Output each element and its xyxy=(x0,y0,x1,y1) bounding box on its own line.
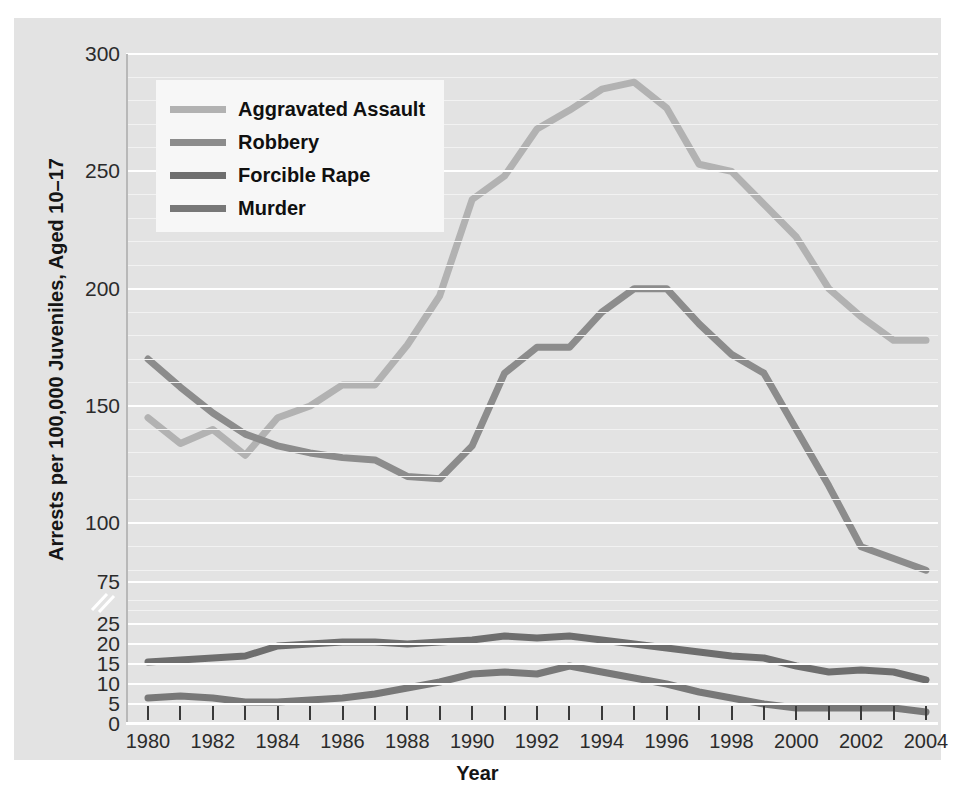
x-axis-tick xyxy=(309,706,311,720)
gridline xyxy=(126,405,938,407)
gridline-minor xyxy=(126,546,938,547)
legend-swatch-icon xyxy=(170,106,226,113)
gridline xyxy=(126,663,938,665)
chart-card: Arrests per 100,000 Juveniles, Aged 10–1… xyxy=(14,18,941,760)
x-axis-tick-label: 1984 xyxy=(255,730,300,753)
legend-swatch-icon xyxy=(170,205,226,212)
gridline-minor xyxy=(126,335,938,336)
x-axis-tick xyxy=(763,706,765,720)
gridline-minor xyxy=(126,265,938,266)
legend-item: Murder xyxy=(170,193,306,223)
gridline xyxy=(126,522,938,524)
x-axis-tick-labels: 1980198219841986198819901992199419961998… xyxy=(126,730,938,760)
y-axis-tick-label: 15 xyxy=(97,653,120,674)
gridline xyxy=(126,623,938,625)
x-axis-tick xyxy=(893,706,895,720)
x-axis-line xyxy=(126,722,938,724)
gridline-minor xyxy=(126,359,938,360)
x-axis-tick-label: 1988 xyxy=(385,730,430,753)
x-axis-tick xyxy=(633,706,635,720)
x-axis-tick xyxy=(374,706,376,720)
legend-item: Aggravated Assault xyxy=(170,94,425,124)
x-axis-tick xyxy=(536,706,538,720)
y-axis-tick-label: 100 xyxy=(85,512,120,533)
x-axis-tick xyxy=(504,706,506,720)
x-axis-tick xyxy=(666,706,668,720)
legend-swatch-icon xyxy=(170,172,226,179)
gridline-minor xyxy=(126,476,938,477)
gridline-minor xyxy=(126,570,938,571)
y-axis-tick-label: 0 xyxy=(108,713,120,734)
x-axis-tick xyxy=(244,706,246,720)
gridline xyxy=(126,53,938,55)
x-axis-tick-label: 1982 xyxy=(191,730,236,753)
x-axis-tick xyxy=(795,706,797,720)
gridline xyxy=(126,683,938,685)
gridline-minor xyxy=(126,382,938,383)
x-axis-tick-label: 1986 xyxy=(320,730,365,753)
chart-legend: Aggravated AssaultRobberyForcible RapeMu… xyxy=(156,80,444,232)
gridline-minor xyxy=(126,452,938,453)
x-axis-tick xyxy=(731,706,733,720)
gridline-minor xyxy=(126,600,938,601)
legend-item-label: Robbery xyxy=(238,131,319,154)
legend-swatch-icon xyxy=(170,139,226,146)
x-axis-tick xyxy=(147,706,149,720)
x-axis-tick xyxy=(568,706,570,720)
gridline xyxy=(126,643,938,645)
x-axis-title: Year xyxy=(14,762,941,785)
y-axis-tick-label: 10 xyxy=(97,673,120,694)
gridline-minor xyxy=(126,241,938,242)
gridline-minor xyxy=(126,77,938,78)
x-axis-tick-label: 2000 xyxy=(774,730,819,753)
x-axis-tick-label: 2002 xyxy=(839,730,884,753)
gridline-minor xyxy=(126,499,938,500)
x-axis-tick xyxy=(925,706,927,720)
legend-item: Forcible Rape xyxy=(170,160,370,190)
y-axis-tick-label: 75 xyxy=(97,571,120,592)
x-axis-tick xyxy=(439,706,441,720)
y-axis-tick-label: 5 xyxy=(108,693,120,714)
x-axis-tick xyxy=(342,706,344,720)
gridline xyxy=(126,581,938,583)
x-axis-tick xyxy=(406,706,408,720)
x-axis-tick xyxy=(860,706,862,720)
gridline-minor xyxy=(126,610,938,611)
gridline-minor xyxy=(126,429,938,430)
gridline xyxy=(126,703,938,705)
x-axis-tick-label: 1980 xyxy=(126,730,171,753)
y-axis-tick-labels: 300250200150100752520151050 xyxy=(54,54,120,724)
x-axis-tick xyxy=(698,706,700,720)
x-axis-tick xyxy=(828,706,830,720)
y-axis-line xyxy=(126,54,128,724)
legend-item-label: Aggravated Assault xyxy=(238,98,425,121)
gridline xyxy=(126,288,938,290)
y-axis-tick-label: 250 xyxy=(85,160,120,181)
x-axis-tick-label: 1990 xyxy=(450,730,495,753)
chart-root: Arrests per 100,000 Juveniles, Aged 10–1… xyxy=(0,0,955,799)
x-axis-tick xyxy=(179,706,181,720)
x-axis-tick xyxy=(277,706,279,720)
x-axis-tick-label: 1994 xyxy=(580,730,625,753)
x-axis-tick-label: 1996 xyxy=(644,730,689,753)
y-axis-tick-label: 150 xyxy=(85,395,120,416)
legend-item-label: Forcible Rape xyxy=(238,164,370,187)
x-axis-tick xyxy=(601,706,603,720)
y-axis-tick-label: 20 xyxy=(97,633,120,654)
legend-item-label: Murder xyxy=(238,197,306,220)
legend-item: Robbery xyxy=(170,127,319,157)
y-axis-tick-label: 25 xyxy=(97,613,120,634)
x-axis-tick-label: 1998 xyxy=(709,730,754,753)
gridline-minor xyxy=(126,312,938,313)
x-axis-tick xyxy=(471,706,473,720)
y-axis-tick-label: 300 xyxy=(85,43,120,64)
x-axis-tick xyxy=(212,706,214,720)
x-axis-tick-label: 1992 xyxy=(515,730,560,753)
x-axis-tick-label: 2004 xyxy=(904,730,949,753)
y-axis-tick-label: 200 xyxy=(85,278,120,299)
